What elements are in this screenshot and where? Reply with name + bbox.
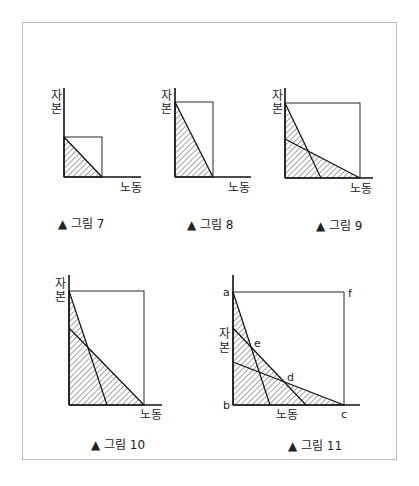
shaded-region <box>285 103 360 178</box>
figure-caption: ▲ 그림 9 <box>316 219 363 233</box>
x-axis-label: 노동 <box>120 181 142 195</box>
x-axis-label: 노동 <box>350 182 372 196</box>
figure-10: 자 본 노동 ▲ 그림 10 <box>55 275 162 452</box>
y-axis-label-bottom: 본 <box>161 102 172 116</box>
figure-caption: ▲ 그림 7 <box>58 217 105 231</box>
diagram-canvas: 자 본 노동 ▲ 그림 7 자 본 노동 ▲ 그림 8 자 본 노동 ▲ 그림 … <box>0 0 419 486</box>
y-axis-label-bottom: 본 <box>55 290 66 304</box>
figure-caption: ▲ 그림 10 <box>91 438 145 452</box>
point-label-e: e <box>254 337 261 350</box>
y-axis-label-top: 자 <box>272 89 283 103</box>
figure-8: 자 본 노동 ▲ 그림 8 <box>161 88 251 232</box>
y-axis-label-bottom: 본 <box>219 341 230 355</box>
x-axis-label: 노동 <box>140 408 162 422</box>
point-label-c: c <box>341 408 347 421</box>
figure-9: 자 본 노동 ▲ 그림 9 <box>272 88 373 233</box>
figure-11: 자 본 노동 a b c d e f ▲ 그림 11 <box>219 275 360 453</box>
y-axis-label-bottom: 본 <box>51 102 62 116</box>
point-label-f: f <box>348 287 353 300</box>
figure-7: 자 본 노동 ▲ 그림 7 <box>51 88 142 231</box>
y-axis-label-top: 자 <box>219 327 230 341</box>
y-axis-label-top: 자 <box>51 89 62 103</box>
point-label-d: d <box>287 371 294 384</box>
point-label-a: a <box>223 286 230 299</box>
y-axis-label-bottom: 본 <box>272 102 283 116</box>
y-axis-label-top: 자 <box>55 277 66 291</box>
y-axis-label-top: 자 <box>161 89 172 103</box>
x-axis-label: 노동 <box>276 408 298 422</box>
point-label-b: b <box>223 399 230 412</box>
figure-caption: ▲ 그림 8 <box>187 218 234 232</box>
shaded-region <box>69 291 144 405</box>
figure-caption: ▲ 그림 11 <box>288 439 342 453</box>
x-axis-label: 노동 <box>228 181 250 195</box>
shaded-region <box>233 292 344 405</box>
